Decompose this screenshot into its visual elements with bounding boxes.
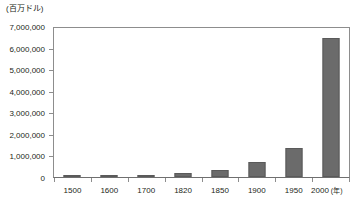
y-axis: 01,000,0002,000,0003,000,0004,000,0005,0… [0,27,53,178]
bar-slot [312,28,349,177]
x-axis-tick-label: 1700 [137,186,155,196]
x-axis-tick-label: 2000 (年) [311,186,342,196]
bar [175,173,192,177]
x-axis-tick-label: 1850 [211,186,229,196]
x-axis-tick-mark [312,178,313,182]
x-axis-tick-mark [275,178,276,182]
y-axis-tick-label: 7,000,000 [9,23,45,32]
y-axis-tick-label: 4,000,000 [9,87,45,96]
y-axis-tick-label: 6,000,000 [9,44,45,53]
x-axis-tick-mark [202,178,203,182]
y-axis-tick-label: 0 [41,174,45,183]
y-axis-tick-label: 2,000,000 [9,130,45,139]
x-axis-tick-label: 1820 [174,186,192,196]
x-axis-tick-mark [238,178,239,182]
x-axis-tick-mark [54,178,55,182]
bar-slot [54,28,91,177]
y-axis-unit-label: (百万ドル) [6,4,43,14]
x-axis-tick-mark [349,178,350,182]
y-axis-tick-label: 1,000,000 [9,152,45,161]
bar [64,175,81,177]
bar-slot [165,28,202,177]
bar-chart: (百万ドル) 01,000,0002,000,0003,000,0004,000… [0,0,360,210]
bar [285,148,302,177]
plot-area [53,27,350,178]
bar [101,175,118,177]
bar [211,170,228,178]
x-axis-tick-label: 1950 [285,186,303,196]
x-axis-tick-mark [128,178,129,182]
bar-slot [202,28,239,177]
bar-slot [238,28,275,177]
x-axis-tick-mark [91,178,92,182]
bar-slot [275,28,312,177]
x-axis-tick-mark [165,178,166,182]
bars-layer [54,28,349,177]
bar [322,38,339,177]
bar [138,175,155,177]
x-axis-tick-label: 1600 [100,186,118,196]
bar-slot [128,28,165,177]
y-axis-tick-label: 3,000,000 [9,109,45,118]
x-axis-unit-label: (年) [329,187,343,194]
bar-slot [91,28,128,177]
x-axis-tick-label: 1500 [64,186,82,196]
bar [248,162,265,177]
x-axis-tick-label: 1900 [248,186,266,196]
x-axis: 15001600170018201850190019502000 (年) [54,178,349,208]
y-axis-tick-label: 5,000,000 [9,66,45,75]
